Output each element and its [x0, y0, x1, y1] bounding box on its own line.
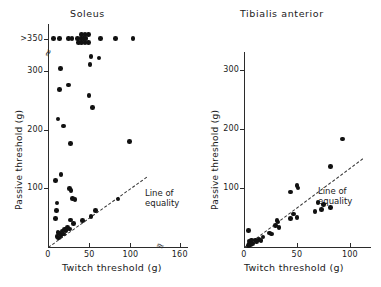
data-point [58, 66, 63, 71]
y-tick-label: >350 [14, 34, 43, 43]
x-tick [180, 243, 181, 247]
data-point [98, 36, 103, 41]
y-tick [240, 188, 244, 189]
data-point [288, 190, 293, 195]
data-point [57, 87, 62, 92]
data-point [68, 141, 73, 146]
data-point [97, 56, 102, 61]
y-tick [44, 188, 48, 189]
panel-tibialis-anterior: Tibialis anterior 100200300050100Line of… [196, 0, 381, 287]
data-point [59, 172, 64, 177]
panel-title-soleus: Soleus [70, 8, 105, 19]
data-point [328, 205, 333, 210]
panel-soleus: Soleus 100200300>350050100160≈≈Line ofeq… [0, 0, 200, 287]
data-point [277, 225, 282, 230]
data-point [93, 208, 98, 213]
data-point [61, 124, 66, 129]
data-point [116, 197, 121, 202]
data-point [86, 32, 91, 37]
data-point [56, 117, 61, 122]
y-tick-label: 300 [14, 66, 43, 75]
data-point [250, 241, 255, 246]
y-tick-label: 300 [210, 65, 239, 74]
data-point [57, 36, 62, 41]
data-point [73, 197, 78, 202]
data-point [90, 105, 95, 110]
x-tick-label: 50 [285, 250, 309, 259]
y-axis [244, 52, 245, 247]
data-point [51, 36, 56, 41]
y-axis-label: Passive threshold (g) [210, 110, 220, 210]
data-point [127, 139, 132, 144]
data-point [246, 243, 251, 248]
data-point [70, 36, 75, 41]
data-point [89, 54, 94, 59]
x-axis-label: Twitch threshold (g) [244, 262, 344, 273]
data-point [295, 215, 300, 220]
y-axis-label: Passive threshold (g) [14, 110, 24, 210]
line-of-equality [48, 177, 147, 248]
y-tick [44, 71, 48, 72]
line-of-equality-label: Line ofequality [145, 188, 179, 208]
data-point [67, 227, 72, 232]
y-tick [44, 130, 48, 131]
data-point [321, 202, 326, 207]
data-point [86, 40, 91, 45]
x-tick-label: 0 [232, 250, 256, 259]
data-point [71, 221, 76, 226]
data-point [246, 228, 251, 233]
x-tick-label: 0 [36, 250, 60, 259]
data-point [89, 214, 94, 219]
y-tick [44, 39, 48, 40]
x-axis [48, 247, 188, 248]
data-point [53, 216, 58, 221]
x-tick-label: 100 [118, 250, 142, 259]
data-point [69, 188, 74, 193]
data-point [259, 238, 264, 243]
data-point [254, 239, 259, 244]
figure-root: Soleus 100200300>350050100160≈≈Line ofeq… [0, 0, 381, 287]
panel-title-tibialis: Tibialis anterior [240, 8, 324, 19]
data-point [54, 208, 59, 213]
x-axis-break-icon: ≈ [154, 240, 166, 252]
data-point [269, 232, 274, 237]
x-axis-label: Twitch threshold (g) [62, 262, 162, 273]
data-point [113, 36, 118, 41]
y-tick [240, 129, 244, 130]
data-point [66, 83, 71, 88]
x-tick [297, 243, 298, 247]
data-point [340, 137, 345, 142]
data-point [80, 218, 85, 223]
data-point [131, 36, 136, 41]
data-point [53, 178, 58, 183]
data-point [313, 209, 318, 214]
y-axis-break-icon: ≈ [42, 47, 54, 59]
y-tick [240, 70, 244, 71]
x-tick [130, 243, 131, 247]
x-tick [350, 243, 351, 247]
data-point [328, 164, 333, 169]
x-tick-label: 160 [168, 250, 192, 259]
x-tick [89, 243, 90, 247]
x-tick-label: 50 [77, 250, 101, 259]
data-point [87, 93, 92, 98]
data-point [288, 216, 293, 221]
x-axis [244, 247, 371, 248]
x-tick-label: 100 [338, 250, 362, 259]
data-point [55, 201, 60, 206]
data-point [296, 186, 301, 191]
data-point [88, 62, 93, 67]
data-point [319, 207, 324, 212]
